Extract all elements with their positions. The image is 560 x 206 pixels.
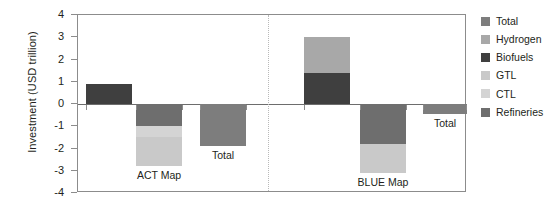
y-axis-tick-label: 1 [34,75,64,86]
x-axis-tick-mark [182,105,183,110]
y-axis-tick-label: 3 [34,31,64,42]
legend-item-hydrogen[interactable]: Hydrogen [481,30,559,48]
x-axis-tick-mark [304,105,305,110]
bar-segment-hydrogen[interactable] [304,37,350,73]
bar-segment-refineries[interactable] [360,104,406,144]
bar-segment-total[interactable] [200,104,246,146]
bar-blue-total[interactable] [423,104,467,114]
bar-segment-biofuels[interactable] [86,84,132,104]
bar-segment-ctl[interactable] [136,126,182,137]
y-axis-title: Investment (USD trillion) [26,0,38,187]
x-axis-tick-mark [136,105,137,110]
x-axis-tick-mark [406,105,407,110]
plot-area: ACT MapTotalBLUE MapTotal [77,14,466,192]
legend-item-biofuels[interactable]: Biofuels [481,48,559,66]
y-axis-tick-label: -4 [34,187,64,198]
chart-legend: TotalHydrogenBiofuelsGTLCTLRefineries [481,12,559,121]
bar-blue-positive[interactable] [304,37,350,104]
y-axis-tick-mark [71,192,77,193]
legend-label: Refineries [496,107,543,118]
x-axis-tick-mark [423,105,424,110]
legend-label: Total [496,16,518,27]
legend-item-total[interactable]: Total [481,12,559,30]
legend-swatch-icon [481,53,490,62]
bar-segment-total[interactable] [423,104,467,114]
bar-segment-biofuels[interactable] [304,73,350,104]
bar-segment-gtl[interactable] [136,137,182,166]
y-axis-tick-label: 4 [34,9,64,20]
bar-label: BLUE Map [358,176,409,188]
legend-swatch-icon [481,17,490,26]
y-axis-tick-label: 2 [34,53,64,64]
legend-swatch-icon [481,35,490,44]
bar-act-total[interactable] [200,104,246,146]
legend-label: Biofuels [496,52,533,63]
legend-label: GTL [496,70,516,81]
x-axis-tick-mark [360,105,361,110]
bar-act-negative[interactable] [136,104,182,166]
y-axis-tick-label: 0 [34,98,64,109]
bar-segment-gtl[interactable] [360,144,406,173]
bar-label: ACT Map [137,169,181,181]
bar-segment-refineries[interactable] [136,104,182,126]
investment-bar-chart: Investment (USD trillion) 43210-1-2-3-4 … [0,0,560,206]
x-axis-tick-mark [86,105,87,110]
legend-label: CTL [496,89,516,100]
bar-label: Total [212,149,234,161]
legend-swatch-icon [481,108,490,117]
x-axis-tick-mark [200,105,201,110]
y-axis-tick-label: -3 [34,164,64,175]
y-axis-tick-label: -1 [34,120,64,131]
legend-item-ctl[interactable]: CTL [481,85,559,103]
legend-label: Hydrogen [496,34,542,45]
legend-swatch-icon [481,89,490,98]
bar-act-positive[interactable] [86,84,132,104]
legend-item-refineries[interactable]: Refineries [481,103,559,121]
legend-item-gtl[interactable]: GTL [481,67,559,85]
scenario-divider [268,15,269,191]
y-axis-tick-label: -2 [34,142,64,153]
bar-blue-negative[interactable] [360,104,406,173]
legend-swatch-icon [481,71,490,80]
x-axis-tick-mark [466,105,467,110]
x-axis-tick-mark [246,105,247,110]
bar-label: Total [434,117,456,129]
